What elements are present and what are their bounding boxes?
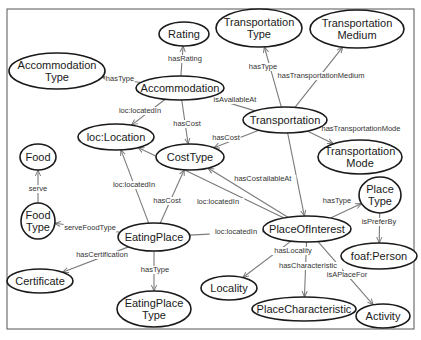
edge-label: isAPlaceFor (327, 270, 368, 279)
node-eating-place: EatingPlace (118, 223, 190, 251)
node-label: Type (45, 71, 69, 83)
node-label: EatingPlace (125, 231, 184, 243)
node-label: Accommodation (18, 59, 97, 71)
edge-label: hasRating (168, 54, 202, 63)
node-label: Type (142, 309, 166, 321)
edge-label: serve (29, 184, 47, 193)
node-label: Locality (210, 282, 248, 294)
edge-label: hasCertification (76, 250, 128, 259)
edge-label: hasTransportationMode (322, 124, 401, 133)
node-layer: RatingAccommodationTypeAccommodationTran… (7, 9, 417, 328)
node-food-type: FoodType (21, 203, 55, 239)
node-certificate: Certificate (7, 269, 73, 293)
node-label: Medium (337, 29, 376, 41)
node-cost-type: CostType (156, 144, 224, 170)
node-label: Activity (366, 310, 401, 322)
edge-label: loc:locatedIn (215, 227, 257, 236)
node-label: Type (26, 221, 50, 233)
node-label: Place (366, 183, 394, 195)
node-label: Mode (346, 157, 374, 169)
edge-label: hasType (106, 74, 134, 83)
node-label: Food (25, 209, 50, 221)
node-label: CostType (167, 151, 213, 163)
node-label: Accommodation (141, 82, 220, 94)
node-label: Rating (168, 28, 200, 40)
edge-label: isAvailableAt (214, 95, 258, 104)
node-place-type: PlaceType (359, 177, 401, 213)
node-eating-place-type: EatingPlaceType (117, 291, 191, 327)
node-food: Food (20, 144, 56, 170)
edge-label: hasType (249, 62, 277, 71)
edge-place_of_interest-to-place_type (331, 204, 362, 218)
node-activity: Activity (356, 304, 410, 328)
edge-label: hasTransportationMedium (278, 71, 365, 80)
node-label: Food (25, 151, 50, 163)
node-place-of-interest: PlaceOfInterest (263, 216, 351, 242)
edge-label: isPreferBy (362, 217, 397, 226)
ontology-diagram: hasRatinghasTypeloc:locatedInhasCosthasT… (0, 0, 421, 340)
edge-label: hasCost (153, 196, 181, 205)
edge-label: hasCost (234, 174, 262, 183)
edge-label: hasCost (212, 133, 240, 142)
node-label: PlaceCharacteristic (257, 303, 352, 315)
node-transportation: Transportation (243, 107, 327, 133)
node-label: Transportation (325, 145, 396, 157)
edge-label: hasType (141, 265, 169, 274)
node-accommodation: Accommodation (136, 76, 224, 100)
edge-label: loc:locatedIn (113, 180, 155, 189)
node-label: Transportation (224, 16, 295, 28)
node-transportation-medium: TransportationMedium (310, 10, 404, 48)
node-label: loc:Location (87, 131, 146, 143)
node-label: Transportation (250, 114, 321, 126)
edge-label: hasLocality (274, 246, 312, 255)
node-loc-location: loc:Location (78, 124, 154, 150)
node-transportation-type: TransportationType (216, 9, 302, 47)
edge-label: loc:locatedIn (119, 106, 161, 115)
node-label: Type (247, 28, 271, 40)
node-label: foaf:Person (351, 250, 407, 262)
node-transportation-mode: TransportationMode (318, 140, 402, 174)
node-accommodation-type: AccommodationType (9, 53, 105, 89)
node-rating: Rating (159, 22, 209, 46)
node-foaf-person: foaf:Person (341, 243, 417, 269)
edge-label: serveFoodType (64, 223, 116, 232)
node-label: PlaceOfInterest (269, 223, 345, 235)
node-label: Transportation (322, 17, 393, 29)
edge-label: hasCost (173, 119, 201, 128)
node-locality: Locality (201, 276, 257, 300)
node-label: Type (368, 195, 392, 207)
edge-label: hasType (323, 196, 351, 205)
node-label: EatingPlace (125, 297, 184, 309)
node-label: Certificate (15, 275, 65, 287)
node-place-characteristic: PlaceCharacteristic (252, 297, 356, 321)
edge-label: hasCharacteristic (279, 261, 337, 270)
edge-label: loc:locatedIn (197, 197, 239, 206)
